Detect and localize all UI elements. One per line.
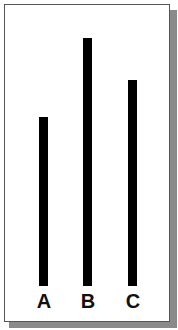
line-b-label: B [73,291,103,311]
line-a-label: A [29,291,59,311]
line-c-label: C [118,291,148,311]
line-c [128,80,137,286]
line-a [39,117,48,286]
line-b [83,38,92,286]
